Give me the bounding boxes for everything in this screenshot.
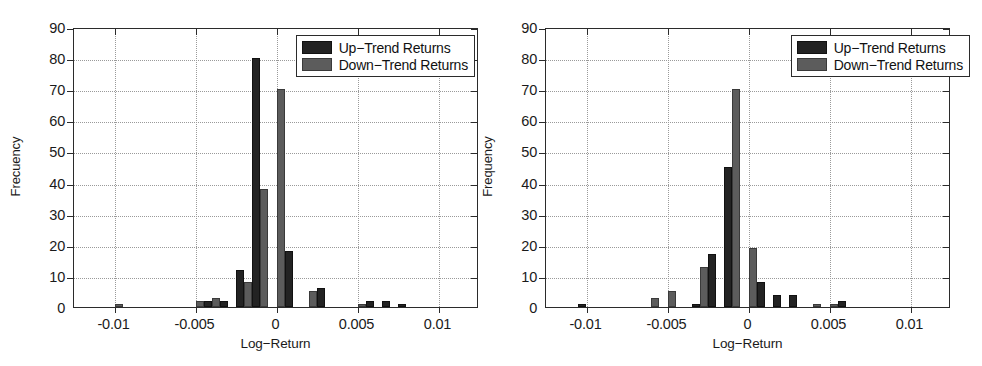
y-axis-tick-right bbox=[471, 278, 477, 279]
gridline-horizontal bbox=[74, 278, 477, 279]
x-axis-title: Log−Return bbox=[545, 336, 950, 351]
bar-up-trend bbox=[578, 304, 586, 307]
y-axis-tick-label: 80 bbox=[499, 52, 537, 66]
y-axis-tick bbox=[539, 60, 546, 61]
x-axis-tick bbox=[439, 307, 440, 313]
bar-up-trend bbox=[382, 301, 390, 307]
gridline-vertical bbox=[668, 29, 669, 307]
bar-up-trend bbox=[773, 295, 781, 307]
x-axis-tick-label: 0.005 bbox=[312, 317, 402, 331]
chart-legend: Up−Trend ReturnsDown−Trend Returns bbox=[791, 35, 970, 77]
y-axis-tick-label: 10 bbox=[27, 270, 65, 284]
y-axis-tick bbox=[67, 153, 74, 154]
x-axis-tick bbox=[668, 307, 669, 313]
gridline-horizontal bbox=[546, 278, 949, 279]
bar-up-trend bbox=[838, 301, 846, 307]
bar-down-trend bbox=[668, 291, 676, 307]
bar-up-trend bbox=[366, 301, 374, 307]
y-axis-tick-label: 10 bbox=[499, 270, 537, 284]
y-axis-tick-right bbox=[471, 91, 477, 92]
x-axis-tick bbox=[358, 307, 359, 313]
legend-item: Down−Trend Returns bbox=[302, 57, 468, 72]
y-axis-tick bbox=[539, 153, 546, 154]
y-axis-tick-right bbox=[943, 247, 949, 248]
y-axis-tick-label: 50 bbox=[27, 145, 65, 159]
y-axis-tick bbox=[67, 122, 74, 123]
y-axis-tick-right bbox=[471, 216, 477, 217]
gridline-horizontal bbox=[74, 153, 477, 154]
bar-down-trend bbox=[244, 282, 252, 307]
y-axis-tick bbox=[67, 216, 74, 217]
y-axis-tick-label: 50 bbox=[499, 145, 537, 159]
bar-up-trend bbox=[789, 295, 797, 307]
gridline-horizontal bbox=[74, 247, 477, 248]
y-axis-tick bbox=[539, 122, 546, 123]
y-axis-tick-right bbox=[943, 278, 949, 279]
x-axis-tick bbox=[587, 307, 588, 313]
y-axis-title: Frecuency bbox=[8, 97, 23, 237]
y-axis-tick-label: 20 bbox=[27, 239, 65, 253]
y-axis-tick bbox=[539, 185, 546, 186]
y-axis-tick bbox=[539, 29, 546, 30]
bar-up-trend bbox=[204, 301, 212, 307]
x-axis-tick-top bbox=[277, 29, 278, 35]
gridline-horizontal bbox=[74, 122, 477, 123]
legend-swatch-down-trend bbox=[302, 58, 332, 71]
legend-label: Down−Trend Returns bbox=[339, 58, 468, 72]
x-axis-tick-top bbox=[668, 29, 669, 35]
y-axis-tick-label: 0 bbox=[27, 301, 65, 315]
bar-up-trend bbox=[724, 167, 732, 307]
x-axis-tick-label: 0.01 bbox=[865, 317, 955, 331]
gridline-horizontal bbox=[74, 216, 477, 217]
y-axis-tick bbox=[539, 91, 546, 92]
gridline-horizontal bbox=[546, 122, 949, 123]
bar-down-trend bbox=[196, 301, 204, 307]
x-axis-tick-top bbox=[749, 29, 750, 35]
legend-item: Up−Trend Returns bbox=[302, 40, 468, 55]
y-axis-tick bbox=[539, 247, 546, 248]
y-axis-tick-label: 80 bbox=[27, 52, 65, 66]
bar-down-trend bbox=[260, 189, 268, 307]
gridline-horizontal bbox=[546, 216, 949, 217]
gridline-vertical bbox=[115, 29, 116, 307]
gridline-horizontal bbox=[546, 153, 949, 154]
y-axis-tick bbox=[67, 247, 74, 248]
y-axis-tick-label: 40 bbox=[499, 177, 537, 191]
x-axis-tick bbox=[911, 307, 912, 313]
legend-label: Up−Trend Returns bbox=[339, 41, 451, 55]
gridline-vertical bbox=[587, 29, 588, 307]
y-axis-tick bbox=[539, 278, 546, 279]
x-axis-tick-label: -0.01 bbox=[69, 317, 159, 331]
bar-down-trend bbox=[830, 304, 838, 307]
legend-swatch-down-trend bbox=[797, 58, 827, 71]
y-axis-tick-right bbox=[943, 91, 949, 92]
bar-up-trend bbox=[252, 58, 260, 307]
x-axis-tick-label: 0 bbox=[231, 317, 321, 331]
bar-up-trend bbox=[236, 270, 244, 307]
gridline-vertical bbox=[196, 29, 197, 307]
bar-down-trend bbox=[277, 89, 285, 307]
x-axis-tick-label: 0.005 bbox=[784, 317, 874, 331]
y-axis-tick bbox=[539, 216, 546, 217]
bar-up-trend bbox=[285, 251, 293, 307]
bar-down-trend bbox=[309, 291, 317, 307]
y-axis-tick-label: 60 bbox=[27, 114, 65, 128]
y-axis-tick bbox=[67, 278, 74, 279]
bar-down-trend bbox=[749, 248, 757, 307]
legend-item: Up−Trend Returns bbox=[797, 40, 963, 55]
bar-down-trend bbox=[115, 304, 123, 307]
gridline-horizontal bbox=[546, 247, 949, 248]
legend-swatch-up-trend bbox=[797, 41, 827, 54]
y-axis-tick bbox=[67, 91, 74, 92]
y-axis-tick-right bbox=[943, 29, 949, 30]
bar-down-trend bbox=[700, 267, 708, 307]
gridline-horizontal bbox=[546, 185, 949, 186]
bar-up-trend bbox=[398, 304, 406, 307]
chart-panel-left: 0102030405060708090-0.01-0.00500.0050.01… bbox=[0, 0, 491, 366]
bar-down-trend bbox=[212, 298, 220, 307]
y-axis-tick-label: 60 bbox=[499, 114, 537, 128]
bar-down-trend bbox=[651, 298, 659, 307]
y-axis-tick-label: 20 bbox=[499, 239, 537, 253]
legend-item: Down−Trend Returns bbox=[797, 57, 963, 72]
bar-up-trend bbox=[708, 254, 716, 307]
